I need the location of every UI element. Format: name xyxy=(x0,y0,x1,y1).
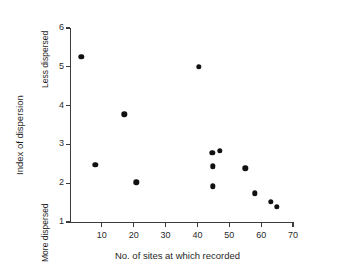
data-point xyxy=(210,163,215,168)
x-tick-label: 60 xyxy=(251,231,271,240)
x-tick-mark xyxy=(229,223,230,227)
y-tick-label: 5 xyxy=(53,62,64,71)
data-point xyxy=(217,148,222,153)
data-point xyxy=(134,180,139,185)
y-tick-label: 6 xyxy=(53,23,64,32)
y-axis-title: Index of dispersion xyxy=(14,95,25,175)
x-tick-label: 70 xyxy=(283,231,303,240)
more-dispersed-annotation: More dispersed xyxy=(40,203,50,262)
data-point xyxy=(196,64,201,69)
y-tick-label: 3 xyxy=(53,139,64,148)
x-tick-mark xyxy=(133,223,134,227)
x-tick-label: 40 xyxy=(187,231,207,240)
data-point xyxy=(78,54,83,59)
data-point xyxy=(93,162,98,167)
y-tick-label: 2 xyxy=(53,178,64,187)
x-tick-label: 50 xyxy=(219,231,239,240)
x-tick-mark xyxy=(292,223,293,227)
x-axis-title: No. of sites at which recorded xyxy=(0,250,355,261)
data-point xyxy=(252,191,257,196)
scatter-chart: 123456 10203040506070 No. of sites at wh… xyxy=(0,0,355,271)
data-points-layer xyxy=(70,28,293,222)
data-point xyxy=(210,184,215,189)
x-tick-label: 30 xyxy=(156,231,176,240)
data-point xyxy=(121,111,126,116)
y-tick-label: 1 xyxy=(53,217,64,226)
x-tick-label: 20 xyxy=(124,231,144,240)
x-tick-mark xyxy=(197,223,198,227)
data-point xyxy=(274,204,279,209)
data-point xyxy=(243,166,248,171)
y-tick-label: 4 xyxy=(53,101,64,110)
x-tick-mark xyxy=(101,223,102,227)
x-tick-mark xyxy=(165,223,166,227)
data-point xyxy=(268,199,273,204)
less-dispersed-annotation: Less dispersed xyxy=(40,31,50,88)
x-tick-label: 10 xyxy=(92,231,112,240)
data-point xyxy=(210,150,215,155)
x-tick-mark xyxy=(261,223,262,227)
